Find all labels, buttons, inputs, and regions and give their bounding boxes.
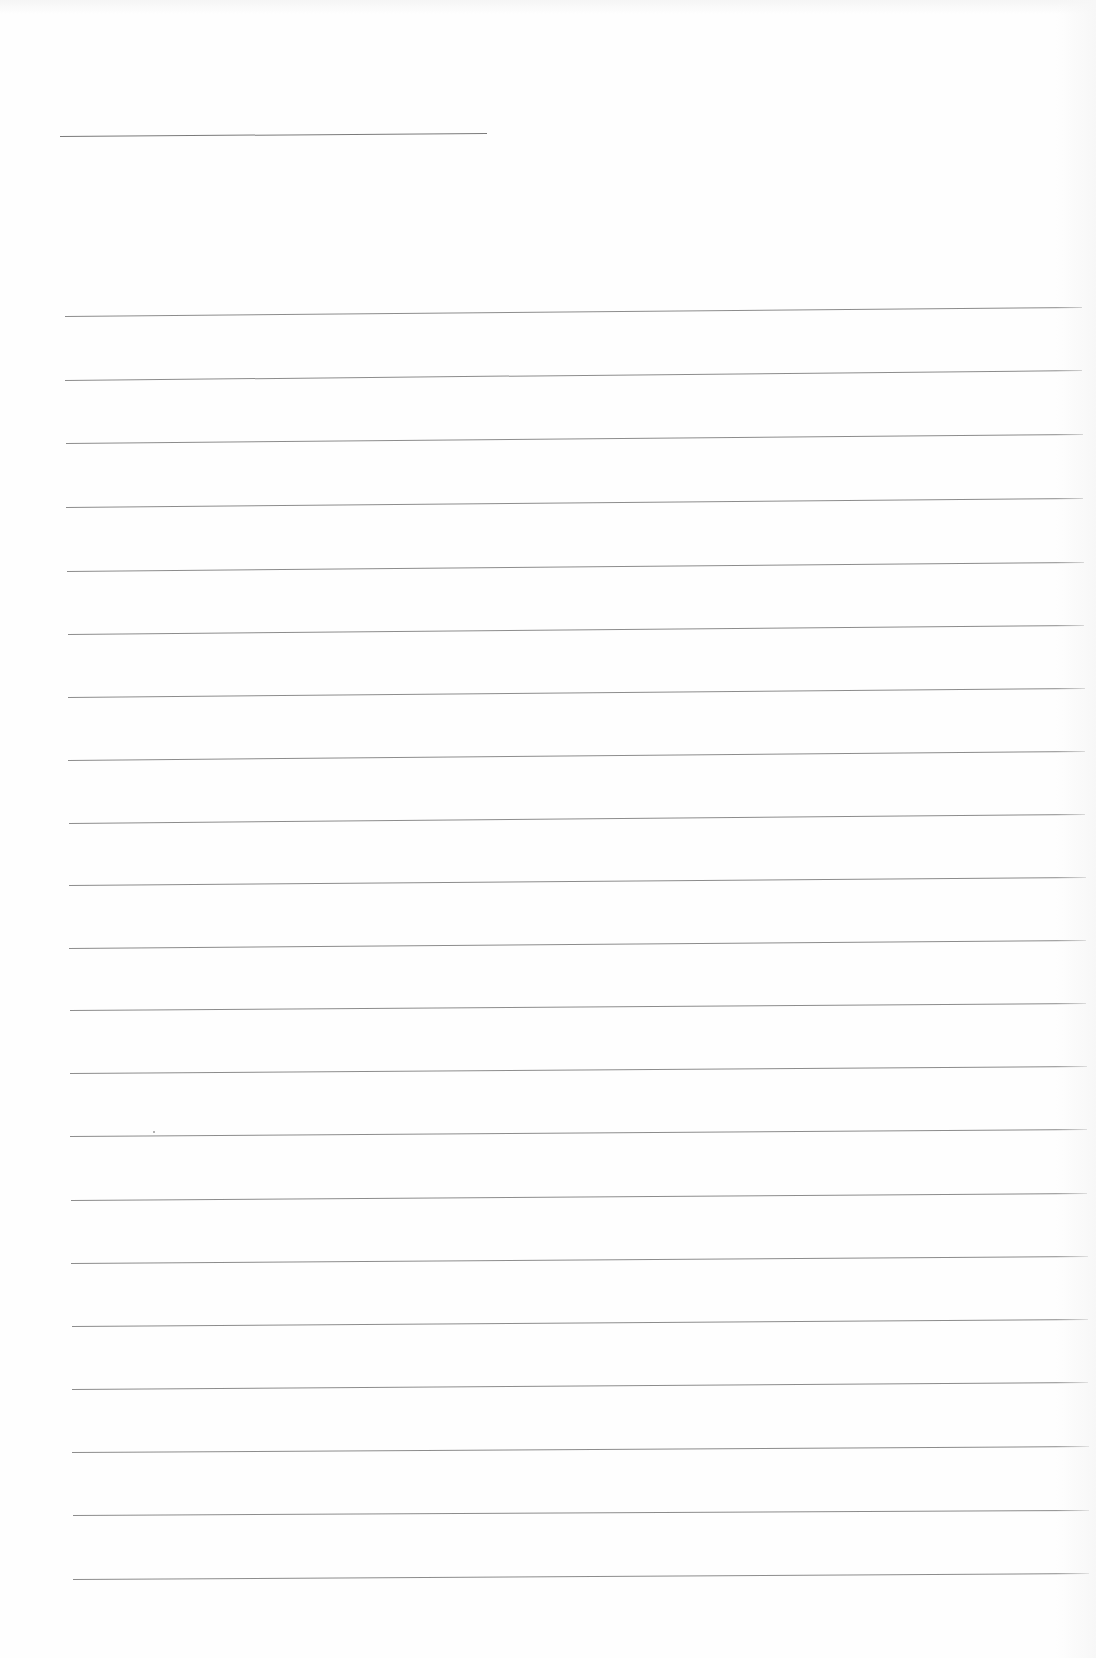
ruled-line <box>68 688 1085 698</box>
ruled-line <box>73 1510 1089 1516</box>
ruled-line <box>69 877 1086 886</box>
header-rule-line <box>60 133 487 137</box>
ruled-line <box>67 562 1084 572</box>
ruled-line <box>65 307 1082 317</box>
ruled-line <box>71 1193 1087 1201</box>
ruled-line <box>66 434 1083 444</box>
ruled-line <box>72 1319 1088 1327</box>
ruled-line <box>66 498 1083 508</box>
ruled-line <box>73 1573 1089 1580</box>
paper-speck <box>153 1131 155 1133</box>
ruled-line <box>72 1446 1089 1453</box>
ruled-line <box>65 370 1082 381</box>
ruled-line <box>69 814 1085 824</box>
ruled-line <box>68 751 1085 761</box>
ruled-line <box>72 1382 1088 1390</box>
ruled-line <box>69 940 1086 949</box>
ruled-line <box>68 625 1084 635</box>
ruled-line <box>71 1256 1088 1264</box>
lined-paper-page <box>0 0 1096 1658</box>
ruled-line <box>70 1066 1087 1074</box>
ruled-line <box>70 1003 1086 1011</box>
ruled-line <box>70 1129 1087 1137</box>
